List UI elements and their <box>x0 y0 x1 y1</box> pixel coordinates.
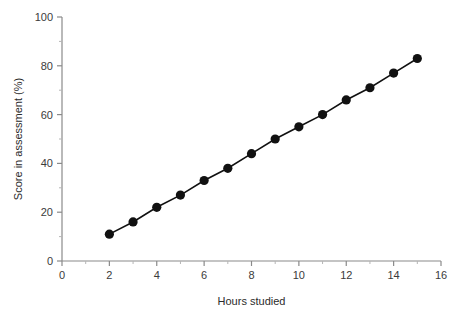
chart-container: 020406080100 0246810121416 Hours studied… <box>0 0 462 315</box>
x-axis: 0246810121416 <box>59 261 447 281</box>
data-point <box>105 230 114 239</box>
y-axis: 020406080100 <box>35 11 62 267</box>
y-tick-label: 100 <box>35 11 53 23</box>
x-tick-label: 16 <box>435 269 447 281</box>
x-axis-title: Hours studied <box>218 295 286 307</box>
y-axis-title: Score in assessment (%) <box>12 78 24 200</box>
data-point <box>413 54 422 63</box>
y-tick-label: 80 <box>41 60 53 72</box>
y-tick-label: 40 <box>41 157 53 169</box>
x-axis-tick-labels: 0246810121416 <box>59 269 447 281</box>
data-point <box>223 164 232 173</box>
x-axis-major-ticks <box>62 261 441 266</box>
data-point <box>247 149 256 158</box>
x-tick-label: 14 <box>388 269 400 281</box>
x-tick-label: 8 <box>248 269 254 281</box>
x-tick-label: 10 <box>293 269 305 281</box>
x-tick-label: 0 <box>59 269 65 281</box>
y-axis-tick-labels: 020406080100 <box>35 11 53 267</box>
x-tick-label: 2 <box>106 269 112 281</box>
data-point <box>271 134 280 143</box>
data-point <box>200 176 209 185</box>
data-series <box>105 54 422 239</box>
data-point <box>318 110 327 119</box>
y-tick-label: 20 <box>41 206 53 218</box>
data-point <box>389 69 398 78</box>
scatter-line-chart: 020406080100 0246810121416 Hours studied… <box>0 0 462 315</box>
x-tick-label: 6 <box>201 269 207 281</box>
data-point <box>342 95 351 104</box>
y-tick-label: 60 <box>41 109 53 121</box>
data-point <box>176 191 185 200</box>
data-point <box>152 203 161 212</box>
y-tick-label: 0 <box>47 255 53 267</box>
x-tick-label: 12 <box>340 269 352 281</box>
data-point <box>365 83 374 92</box>
data-point <box>128 217 137 226</box>
x-tick-label: 4 <box>154 269 160 281</box>
data-point <box>294 122 303 131</box>
